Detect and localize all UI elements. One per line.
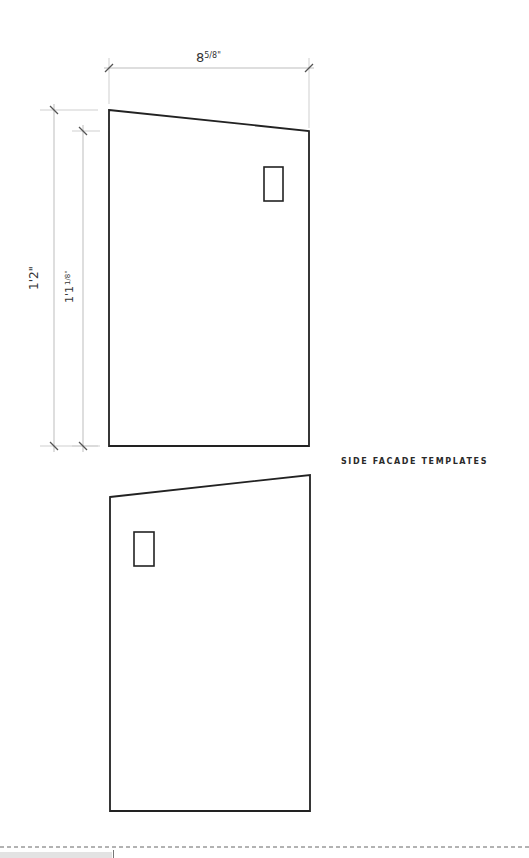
inner-height-dimension	[72, 125, 100, 452]
drawing-canvas: 85/8" 1'2" 1'11/8"	[0, 0, 529, 858]
outer-height-label: 1'2"	[27, 266, 41, 290]
side-facade-lower	[110, 475, 310, 811]
window-opening	[134, 532, 154, 566]
side-facade-upper	[109, 110, 309, 446]
page-edge-strip	[0, 852, 112, 858]
window-opening	[264, 167, 283, 201]
page-edge-marker	[113, 850, 114, 858]
inner-height-label: 1'11/8"	[63, 270, 76, 303]
drawing-title: SIDE FACADE TEMPLATES	[341, 457, 488, 466]
width-dimension-label: 85/8"	[196, 50, 221, 65]
width-dimension	[104, 58, 314, 128]
